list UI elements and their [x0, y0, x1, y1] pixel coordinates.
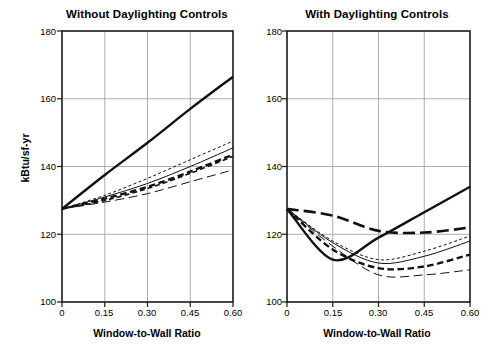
axis-ticks-right — [282, 31, 470, 307]
plot-canvas — [0, 0, 499, 362]
plot-area-left — [57, 31, 233, 307]
chart-figure: Without Daylighting Controls With Daylig… — [0, 0, 499, 362]
axis-ticks-left — [57, 31, 233, 307]
plot-area-right — [282, 31, 470, 307]
gridlines-left — [62, 31, 233, 302]
